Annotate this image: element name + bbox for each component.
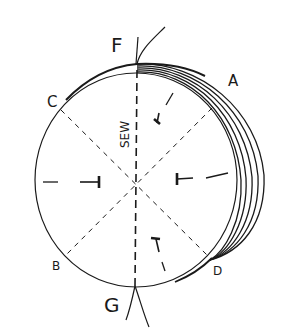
fold-line-f-g [135,70,137,286]
pin-top-right-dash [166,93,173,105]
label-b: B [52,259,60,273]
label-sew: SEW [118,121,132,148]
thread-top-curve [137,27,165,64]
label-f: F [111,33,123,57]
pin-top-right-icon [154,113,160,124]
thread-bottom-right [135,286,149,327]
bottom-fold-edge [175,258,212,282]
thread-bottom-left [126,286,135,320]
label-g: G [104,293,120,317]
label-c: C [47,93,57,111]
label-a: A [228,72,239,90]
pin-right-icon [177,173,193,185]
fold-layers [137,64,264,260]
label-d: D [213,264,222,278]
pin-bottom-dash [162,262,165,271]
diagram-canvas: F A C B D G SEW [0,0,288,336]
top-fold-edge [66,64,205,100]
pin-right-dash [206,173,228,178]
sewing-fold-diagram: F A C B D G SEW [0,0,288,336]
pin-left-icon [80,176,99,188]
pin-bottom-icon [151,238,160,252]
